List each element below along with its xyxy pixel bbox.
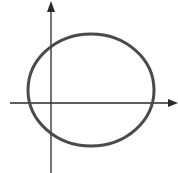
x-axis-arrow-icon	[168, 99, 178, 107]
y-axis	[47, 1, 55, 173]
y-axis-arrow-icon	[47, 1, 55, 12]
closed-curve	[28, 34, 154, 146]
coordinate-diagram	[0, 0, 178, 173]
